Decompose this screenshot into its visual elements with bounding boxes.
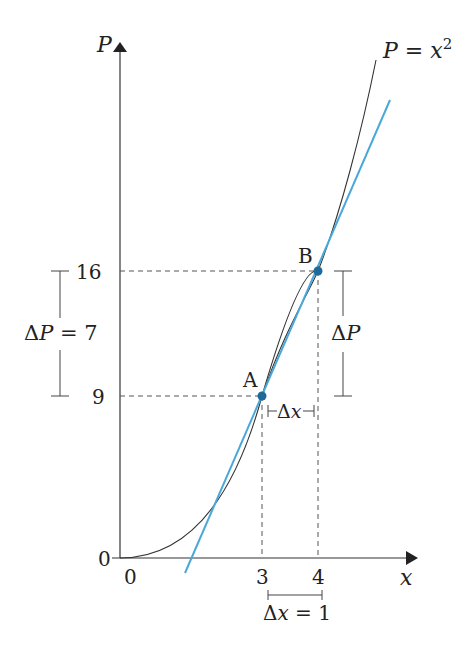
x-axis-arrow-icon: [406, 551, 418, 565]
point-b-label: B: [298, 244, 313, 268]
y-axis-arrow-icon: [113, 42, 127, 52]
curve-label: P = x2: [382, 35, 452, 63]
delta-x-inner-label: Δx: [277, 400, 302, 422]
point-b: [314, 267, 323, 276]
diagram-canvas: P x 0 9 16 0 3 4 A B P = x2 ΔP = 7: [0, 0, 465, 648]
y-tick-16: 16: [76, 260, 101, 284]
y-tick-0: 0: [98, 547, 111, 571]
delta-p-left-label: ΔP = 7: [24, 321, 98, 345]
x-tick-4: 4: [312, 565, 325, 589]
x-axis-label: x: [400, 565, 413, 590]
delta-x-bottom-bracket: [268, 590, 322, 600]
y-tick-9: 9: [92, 385, 105, 409]
delta-x-bottom-label: Δx = 1: [263, 601, 331, 625]
delta-p-right-label: ΔP: [331, 321, 361, 345]
point-a: [258, 392, 267, 401]
point-a-label: A: [242, 368, 258, 392]
x-tick-0: 0: [124, 565, 137, 589]
parabola-curve-upper: [262, 60, 376, 396]
y-axis-label: P: [96, 32, 113, 57]
x-tick-3: 3: [256, 565, 269, 589]
